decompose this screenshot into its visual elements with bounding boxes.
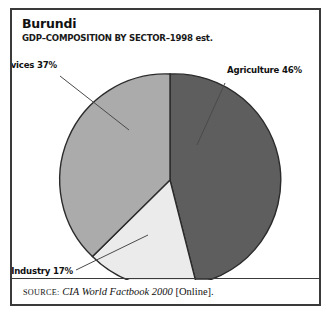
source-suffix: [Online]. [175,286,213,297]
pie-chart-svg: Agriculture 46% Services 37% Industry 17… [12,48,319,280]
pie-chart: Agriculture 46% Services 37% Industry 17… [12,48,319,280]
pie-label-agriculture: Agriculture 46% [227,65,303,75]
figure-frame: Burundi GDP–COMPOSITION BY SECTOR–1998 e… [10,8,321,306]
source-divider [12,278,319,279]
pie-label-services: Services 37% [12,60,58,70]
source-work-title: CIA World Factbook 2000 [62,286,173,297]
page-title: Burundi [22,17,312,30]
figure-header: Burundi GDP–COMPOSITION BY SECTOR–1998 e… [22,17,312,44]
chart-subtitle: GDP–COMPOSITION BY SECTOR–1998 est. [22,33,312,44]
pie-label-industry: Industry 17% [12,266,74,276]
source-note: SOURCE: CIA World Factbook 2000 [Online]… [23,286,308,297]
source-label: SOURCE: [23,288,60,297]
